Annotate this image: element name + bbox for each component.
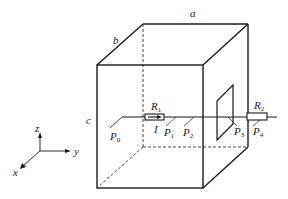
- resistor-r2: [247, 113, 267, 120]
- edge-bottom-right-diag: [203, 147, 248, 188]
- label-a: a: [190, 7, 196, 19]
- leader-p1: [166, 117, 176, 126]
- axis-label-x: x: [12, 166, 18, 178]
- label-current: I: [153, 123, 159, 135]
- hidden-edge-bottom-diag: [97, 147, 143, 188]
- label-p1: P1: [163, 126, 175, 140]
- label-p4: P4: [252, 125, 264, 139]
- wire-entry: [110, 117, 122, 128]
- axis-label-y: y: [73, 145, 79, 157]
- label-p3: P3: [233, 125, 245, 139]
- label-r1: R1: [150, 100, 162, 114]
- label-b: b: [113, 34, 119, 46]
- box-diagram: a b c z y x R1 R2 I P0 P1 P2 P3 P4: [0, 0, 288, 199]
- edge-top-right-diag: [203, 24, 248, 65]
- axis-label-z: z: [34, 122, 40, 134]
- label-p0: P0: [109, 130, 121, 144]
- axis-x: [23, 151, 40, 166]
- label-r2: R2: [253, 99, 265, 113]
- label-c: c: [86, 114, 91, 126]
- edge-top-left-diag: [97, 24, 143, 65]
- label-p2: P2: [182, 126, 194, 140]
- axis-y-arrow-icon: [65, 149, 71, 153]
- plate: [217, 85, 233, 140]
- leader-p2: [184, 117, 194, 126]
